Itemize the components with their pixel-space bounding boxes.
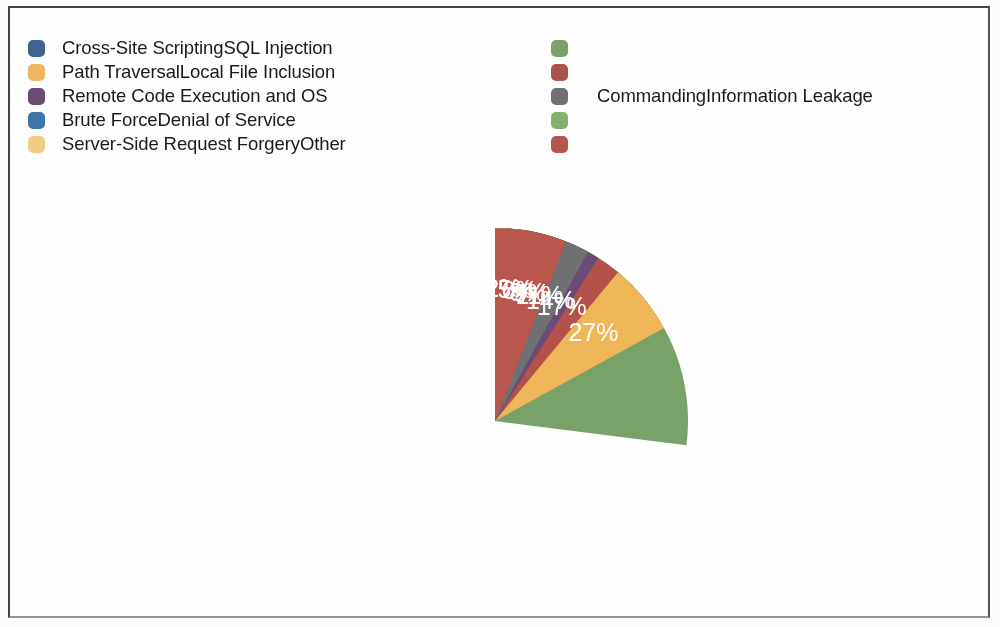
legend-swatch-icon — [28, 88, 45, 105]
legend-item-label: Path TraversalLocal File Inclusion — [62, 61, 335, 83]
legend-swatch-icon — [551, 136, 568, 153]
figure-container: Cross-Site ScriptingSQL Injection Path T… — [0, 0, 1000, 627]
legend-swatch-icon — [551, 88, 568, 105]
legend-item[interactable]: Remote Code Execution and OS — [28, 84, 346, 108]
legend-swatch-icon — [28, 40, 45, 57]
legend-swatch-icon — [551, 112, 568, 129]
pie-slice-value-label: 27% — [568, 318, 618, 346]
legend-item[interactable]: Path TraversalLocal File Inclusion — [28, 60, 346, 84]
legend-item[interactable]: CommandingInformation Leakage — [551, 84, 873, 108]
legend-item-label: Server-Side Request ForgeryOther — [62, 133, 346, 155]
legend-item-label: Brute ForceDenial of Service — [62, 109, 296, 131]
legend-item-label: Cross-Site ScriptingSQL Injection — [62, 37, 333, 59]
legend-item[interactable]: Brute ForceDenial of Service — [28, 108, 346, 132]
legend-swatch-icon — [28, 136, 45, 153]
legend-item[interactable]: Server-Side Request ForgeryOther — [28, 132, 346, 156]
legend-item[interactable] — [551, 60, 873, 84]
legend-swatch-icon — [28, 112, 45, 129]
legend-swatch-icon — [28, 64, 45, 81]
legend-item-label: Remote Code Execution and OS — [62, 85, 328, 107]
legend-swatch-icon — [551, 40, 568, 57]
legend-item-label: CommandingInformation Leakage — [597, 85, 873, 107]
legend-item[interactable] — [551, 132, 873, 156]
legend-item[interactable] — [551, 36, 873, 60]
legend-right-column: CommandingInformation Leakage — [551, 36, 873, 156]
legend-item[interactable]: Cross-Site ScriptingSQL Injection — [28, 36, 346, 60]
legend-item[interactable] — [551, 108, 873, 132]
legend-swatch-icon — [551, 64, 568, 81]
pie-chart: 14%27%17%11%9%8%5%2%1%6% — [300, 226, 690, 616]
pie-chart-svg: 14%27%17%11%9%8%5%2%1%6% — [300, 226, 690, 616]
legend-left-column: Cross-Site ScriptingSQL Injection Path T… — [28, 36, 346, 156]
pie-slice-value-label: 6% — [502, 276, 538, 304]
